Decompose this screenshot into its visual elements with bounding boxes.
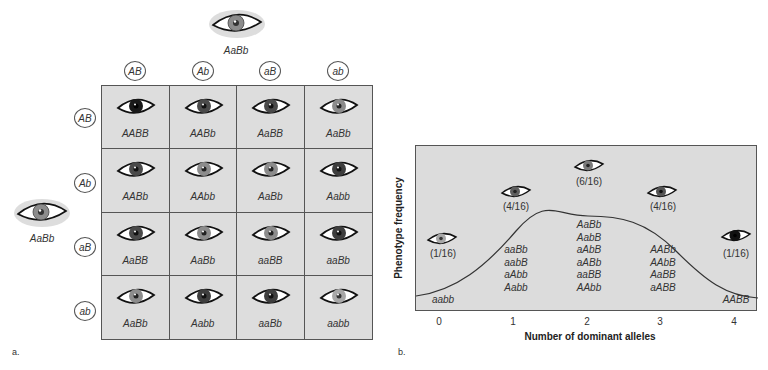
cell-genotype: AAbb: [170, 191, 237, 202]
row-gamete-AB: AB: [74, 108, 96, 128]
punnett-grid: AABB AABb AaBB AaBb AABb AAbb AaBb: [101, 85, 373, 340]
eye-icon-4-dominant: [720, 227, 752, 249]
x-tick-1: 1: [503, 316, 523, 327]
genotype: aaBB: [564, 269, 614, 282]
left-parent-eye-icon: [13, 197, 71, 233]
genotype: AabB: [564, 232, 614, 245]
punnett-cell: AABb: [102, 149, 170, 212]
chart-plot-area: (1/16) (4/16) (6/16) (4/16) (1/16) aabb …: [415, 145, 757, 311]
cell-genotype: aaBb: [237, 318, 304, 329]
eye-icon: [183, 284, 225, 314]
eye-icon: [250, 94, 292, 124]
punnett-cell: aaBB: [237, 213, 305, 276]
cell-genotype: AABb: [102, 191, 169, 202]
genotype-column-0: aabb: [418, 294, 468, 307]
punnett-cell: Aabb: [170, 276, 238, 339]
cell-genotype: AABB: [102, 128, 169, 139]
y-axis-label: Phenotype frequency: [393, 177, 404, 279]
top-parent-eye-icon: [208, 8, 266, 44]
punnett-cell: aaBb: [237, 276, 305, 339]
eye-icon: [183, 221, 225, 251]
panel-b-label: b.: [398, 347, 406, 357]
eye-icon: [318, 94, 360, 124]
column-gamete-Ab: Ab: [192, 61, 214, 81]
eye-icon: [318, 284, 360, 314]
frequency-label-4: (1/16): [711, 248, 761, 259]
cell-genotype: AaBb: [102, 318, 169, 329]
eye-icon: [115, 94, 157, 124]
cell-genotype: Aabb: [170, 318, 237, 329]
genotype: AaBB: [638, 269, 688, 282]
cell-genotype: AaBB: [102, 255, 169, 266]
eye-icon: [318, 221, 360, 251]
eye-icon: [183, 157, 225, 187]
genotype: AAbb: [564, 282, 614, 295]
cell-genotype: AaBB: [237, 128, 304, 139]
genotype: AaBb: [564, 219, 614, 232]
punnett-cell: AaBB: [237, 86, 305, 149]
cell-genotype: aaBB: [237, 255, 304, 266]
punnett-cell: aabb: [305, 276, 373, 339]
genotype-column-3: AABb AAbB AaBB aABB: [638, 244, 688, 294]
eye-icon: [115, 284, 157, 314]
punnett-cell: AaBB: [102, 213, 170, 276]
punnett-cell: Aabb: [305, 149, 373, 212]
x-tick-4: 4: [724, 316, 744, 327]
eye-icon: [318, 157, 360, 187]
cell-genotype: AaBb: [305, 128, 373, 139]
column-gamete-ab: ab: [327, 61, 349, 81]
genotype: aAbB: [564, 244, 614, 257]
punnett-cell: AaBb: [102, 276, 170, 339]
punnett-cell: AABb: [170, 86, 238, 149]
cell-genotype: aaBb: [305, 255, 373, 266]
frequency-label-3: (4/16): [638, 201, 688, 212]
left-parent-genotype: AaBb: [26, 233, 58, 244]
row-gamete-aB: aB: [74, 237, 96, 257]
genotype: AAbB: [638, 257, 688, 270]
x-tick-2: 2: [577, 316, 597, 327]
eye-icon: [250, 157, 292, 187]
frequency-label-2: (6/16): [564, 176, 614, 187]
genotype: aabb: [418, 294, 468, 307]
panel-a-label: a.: [12, 347, 20, 357]
genotype: AABB: [711, 294, 761, 307]
row-gamete-Ab: Ab: [74, 173, 96, 193]
eye-icon: [115, 221, 157, 251]
genotype: aAbb: [491, 269, 541, 282]
x-axis-label: Number of dominant alleles: [480, 331, 700, 342]
x-tick-0: 0: [429, 316, 449, 327]
genotype-column-2: AaBb AabB aAbB aABb aaBB AAbb: [564, 219, 614, 294]
column-gamete-AB: AB: [124, 61, 146, 81]
cell-genotype: AABb: [170, 128, 237, 139]
column-gamete-aB: aB: [259, 61, 281, 81]
cell-genotype: Aabb: [305, 191, 373, 202]
punnett-cell: AAbb: [170, 149, 238, 212]
genotype-column-4: AABB: [711, 294, 761, 307]
cell-genotype: aabb: [305, 318, 373, 329]
genotype-column-1: aaBb aabB aAbb Aabb: [491, 244, 541, 294]
cell-genotype: AaBb: [170, 255, 237, 266]
eye-icon: [183, 94, 225, 124]
punnett-cell: AaBb: [170, 213, 238, 276]
punnett-cell: AaBb: [237, 149, 305, 212]
frequency-label-0: (1/16): [418, 248, 468, 259]
genotype: aabB: [491, 257, 541, 270]
punnett-cell: AaBb: [305, 86, 373, 149]
cell-genotype: AaBb: [237, 191, 304, 202]
genotype: aABb: [564, 257, 614, 270]
top-parent-genotype: AaBb: [220, 45, 252, 56]
x-tick-3: 3: [650, 316, 670, 327]
genotype: aaBb: [491, 244, 541, 257]
eye-icon: [250, 284, 292, 314]
punnett-cell: aaBb: [305, 213, 373, 276]
punnett-cell: AABB: [102, 86, 170, 149]
row-gamete-ab: ab: [74, 301, 96, 321]
eye-icon: [250, 221, 292, 251]
genotype: AABb: [638, 244, 688, 257]
eye-icon: [115, 157, 157, 187]
genotype: aABB: [638, 282, 688, 295]
frequency-label-1: (4/16): [491, 201, 541, 212]
genotype: Aabb: [491, 282, 541, 295]
